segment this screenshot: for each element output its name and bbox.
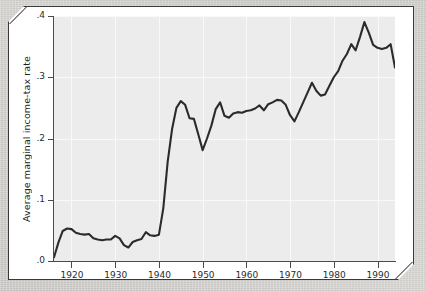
- x-axis-tick: 1970: [290, 262, 291, 268]
- x-axis-tick: 1960: [246, 262, 247, 268]
- x-axis-tick: 1930: [115, 262, 116, 268]
- x-axis-tick: 1990: [378, 262, 379, 268]
- series-line-chart: [54, 16, 395, 261]
- x-axis-tick-label: 1920: [61, 270, 84, 281]
- y-axis-tick-label: .0: [36, 255, 45, 266]
- y-axis-tick-label: .2: [36, 133, 45, 144]
- x-axis-tick: 1950: [203, 262, 204, 268]
- plot-area: [54, 16, 395, 261]
- x-axis-tick-label: 1950: [192, 270, 215, 281]
- y-axis-tick-label: .3: [36, 71, 45, 82]
- y-axis-tick-label: .4: [36, 10, 45, 21]
- x-axis-tick-label: 1970: [279, 270, 302, 281]
- y-axis-tick: .1: [48, 200, 54, 201]
- x-axis-tick: 1940: [159, 262, 160, 268]
- y-axis-tick: .4: [48, 16, 54, 17]
- figure-backdrop: Average marginal income-tax rate .0.1.2.…: [0, 0, 426, 292]
- figure-card: Average marginal income-tax rate .0.1.2.…: [8, 6, 414, 280]
- series-polyline-average-marginal-income-tax-rate: [54, 22, 395, 257]
- x-axis-tick-label: 1980: [323, 270, 346, 281]
- y-axis-tick: .3: [48, 77, 54, 78]
- plot-wrapper: Average marginal income-tax rate .0.1.2.…: [9, 7, 415, 281]
- x-axis-spine: [53, 261, 396, 262]
- y-axis-title: Average marginal income-tax rate: [19, 16, 33, 262]
- x-axis-tick-label: 1940: [148, 270, 171, 281]
- x-axis-tick: 1920: [71, 262, 72, 268]
- y-axis-tick-label: .1: [36, 194, 45, 205]
- y-axis-tick: .0: [48, 261, 54, 262]
- y-axis-tick: .2: [48, 139, 54, 140]
- x-axis-tick-label: 1990: [367, 270, 390, 281]
- x-axis-tick: 1980: [334, 262, 335, 268]
- x-axis-tick-label: 1930: [104, 270, 127, 281]
- x-axis-tick-label: 1960: [235, 270, 258, 281]
